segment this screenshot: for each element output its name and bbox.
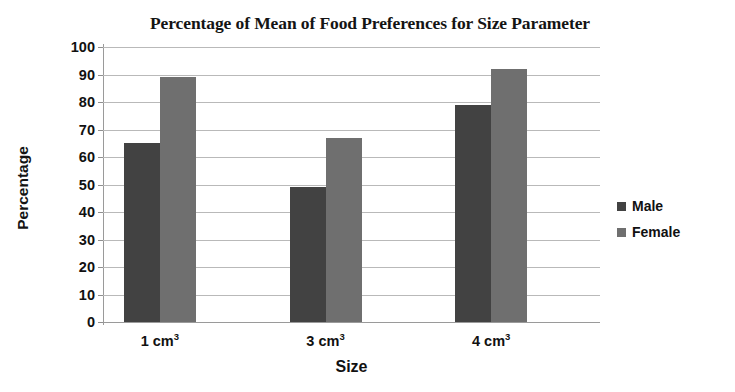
- chart-title: Percentage of Mean of Food Preferences f…: [60, 13, 680, 34]
- bar-female-3: [491, 69, 527, 322]
- y-tick-label: 60: [51, 150, 95, 165]
- legend-label: Female: [632, 224, 680, 240]
- y-axis-title: Percentage: [14, 108, 40, 268]
- y-tick-label: 20: [51, 260, 95, 275]
- x-tick-label: 4 cm3: [436, 331, 546, 349]
- bar-female-1: [160, 77, 196, 322]
- bar-female-2: [326, 138, 362, 322]
- legend-entry-female[interactable]: Female: [617, 219, 680, 245]
- bar-chart: Percentage of Mean of Food Preferences f…: [0, 0, 735, 392]
- legend-label: Male: [632, 198, 663, 214]
- bar-male-1: [124, 143, 160, 322]
- gridline: [103, 47, 600, 48]
- y-tick-label: 100: [51, 40, 95, 55]
- y-tick-label: 70: [51, 123, 95, 138]
- bar-male-3: [455, 105, 491, 322]
- y-tick-label: 90: [51, 68, 95, 83]
- x-tick-label: 3 cm3: [271, 331, 381, 349]
- y-tick-label: 80: [51, 95, 95, 110]
- y-tick-label: 40: [51, 205, 95, 220]
- y-tick-label: 30: [51, 233, 95, 248]
- bar-male-2: [290, 187, 326, 322]
- chart-legend: MaleFemale: [617, 193, 680, 245]
- legend-entry-male[interactable]: Male: [617, 193, 680, 219]
- y-tick-label: 0: [51, 315, 95, 330]
- x-tick-label: 1 cm3: [105, 331, 215, 349]
- plot-area: [103, 47, 600, 322]
- y-tick-label: 10: [51, 288, 95, 303]
- female-swatch-icon: [617, 228, 626, 237]
- male-swatch-icon: [617, 202, 626, 211]
- gridline: [103, 322, 600, 323]
- y-tick-label: 50: [51, 178, 95, 193]
- x-axis-title: Size: [103, 358, 600, 376]
